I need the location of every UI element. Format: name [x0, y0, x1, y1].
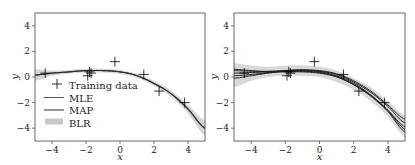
- x-tick-label: 2: [351, 145, 357, 155]
- blr-confidence-band: [35, 69, 205, 136]
- x-tick-label: 4: [185, 145, 191, 155]
- training-data-point: [110, 57, 120, 67]
- y-tick-label: 2: [24, 46, 30, 56]
- x-axis-label: x: [117, 151, 123, 162]
- y-tick-label: −2: [17, 98, 30, 108]
- y-axis-label: y: [9, 74, 20, 81]
- legend-label: Training data: [69, 80, 138, 91]
- x-axis-label: x: [317, 151, 323, 162]
- legend-item-map: MAP: [44, 105, 93, 116]
- legend-label: BLR: [69, 118, 91, 129]
- band-swatch-icon: [45, 119, 63, 125]
- legend-label: MAP: [69, 105, 93, 116]
- legend-item-mle: MLE: [44, 93, 93, 104]
- y-tick-label: 0: [24, 72, 30, 82]
- left-axes: −4−2024−4−2024xyTraining dataMLEMAPBLR: [9, 13, 205, 162]
- figure: −4−2024−4−2024xyTraining dataMLEMAPBLR −…: [0, 0, 415, 165]
- y-tick-label: 4: [223, 21, 229, 31]
- x-tick-label: −4: [244, 145, 258, 155]
- plot-area: [234, 57, 405, 138]
- y-tick-label: −4: [216, 123, 230, 133]
- y-tick-label: −4: [17, 123, 31, 133]
- right-axes: −4−2024−4−2024xy: [208, 13, 405, 162]
- legend-item-blr: BLR: [45, 118, 91, 129]
- y-tick-label: −2: [216, 98, 229, 108]
- legend-item-training-data: Training data: [52, 79, 138, 91]
- y-axis-label: y: [208, 74, 219, 81]
- legend: Training dataMLEMAPBLR: [44, 79, 138, 129]
- y-tick-label: 2: [223, 46, 229, 56]
- x-tick-label: −4: [45, 145, 59, 155]
- x-tick-label: 4: [385, 145, 391, 155]
- training-data-point: [309, 57, 319, 67]
- y-tick-label: 0: [223, 72, 229, 82]
- legend-label: MLE: [69, 93, 93, 104]
- x-tick-label: −2: [79, 145, 92, 155]
- y-tick-label: 4: [24, 21, 30, 31]
- x-tick-label: −2: [279, 145, 292, 155]
- x-tick-label: 2: [151, 145, 157, 155]
